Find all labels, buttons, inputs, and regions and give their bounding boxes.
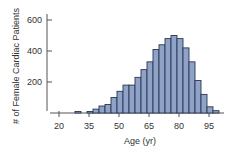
histogram-bar — [147, 62, 153, 113]
histogram-bar — [183, 48, 189, 113]
x-tick-label: 50 — [114, 121, 124, 131]
histogram-bar — [87, 111, 93, 113]
histogram-bar — [105, 104, 111, 113]
x-tick-label: 95 — [204, 121, 214, 131]
histogram-bar — [195, 80, 201, 113]
histogram-bars — [75, 36, 219, 114]
histogram-bar — [171, 36, 177, 114]
x-tick-label: 35 — [84, 121, 94, 131]
histogram-bar — [189, 62, 195, 113]
histogram-bar — [75, 111, 81, 113]
histogram-bar — [207, 107, 213, 113]
histogram-bar — [123, 85, 129, 113]
y-axis: 200400600 — [27, 14, 52, 111]
histogram-bar — [153, 49, 159, 113]
y-tick-label: 400 — [27, 46, 42, 56]
histogram-bar — [99, 106, 105, 113]
y-tick-label: 200 — [27, 77, 42, 87]
y-axis-title: # of Female Cardiac Patients — [11, 7, 21, 124]
histogram-bar — [117, 91, 123, 113]
histogram-bar — [213, 111, 219, 113]
histogram-bar — [159, 45, 165, 113]
x-tick-label: 80 — [174, 121, 184, 131]
histogram-bar — [177, 39, 183, 113]
histogram-bar — [201, 94, 207, 113]
y-tick-label: 600 — [27, 15, 42, 25]
histogram-bar — [111, 98, 117, 114]
histogram-bar — [135, 77, 141, 113]
histogram-bar — [129, 85, 135, 113]
x-tick-label: 65 — [144, 121, 154, 131]
histogram-bar — [141, 70, 147, 113]
histogram-bar — [165, 39, 171, 113]
x-tick-label: 20 — [54, 121, 64, 131]
histogram-bar — [93, 109, 99, 113]
x-axis: 203550658095 — [50, 111, 224, 131]
x-axis-title: Age (yr) — [124, 136, 156, 146]
histogram-chart: 200400600 203550658095 # of Female Cardi… — [0, 0, 248, 157]
